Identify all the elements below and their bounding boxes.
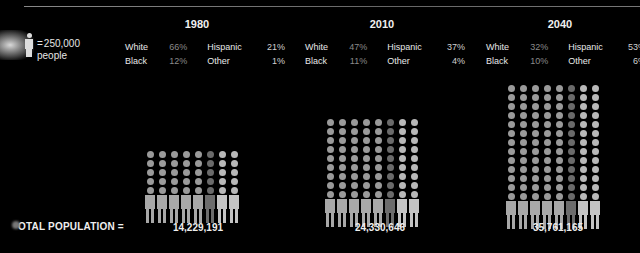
person-head-icon [568, 121, 575, 128]
person-head-icon [520, 148, 527, 155]
person-head-icon [532, 175, 539, 182]
total-2040: 35,761,165 [508, 222, 608, 233]
person-head-icon [580, 157, 587, 164]
person-head-icon [532, 94, 539, 101]
person-head-icon [171, 169, 178, 176]
person-head-icon [520, 166, 527, 173]
person-head-icon [339, 119, 346, 126]
person-head-icon [568, 112, 575, 119]
person-head-icon [231, 151, 238, 158]
white-pct: 47% [344, 40, 367, 54]
person-head-icon [520, 103, 527, 110]
hispanic-pct: 37% [442, 40, 465, 54]
person-head-icon [351, 146, 358, 153]
person-head-icon [592, 112, 599, 119]
person-head-icon [399, 164, 406, 171]
legend: =250,000 people [24, 33, 80, 62]
person-head-icon [159, 187, 166, 194]
person-head-icon [327, 119, 334, 126]
person-head-icon [363, 155, 370, 162]
person-head-icon [219, 178, 226, 185]
person-head-icon [339, 182, 346, 189]
person-head-icon [195, 178, 202, 185]
year-2010: 2010 [332, 18, 432, 30]
person-head-icon [532, 139, 539, 146]
person-head-icon [568, 94, 575, 101]
person-head-icon [532, 148, 539, 155]
person-head-icon [544, 130, 551, 137]
person-head-icon [411, 182, 418, 189]
person-head-icon [375, 155, 382, 162]
person-head-icon [351, 173, 358, 180]
stats-2010: White 47% Hispanic 37% Black 11% Other 4… [305, 40, 465, 68]
person-head-icon [580, 139, 587, 146]
person-head-icon [544, 103, 551, 110]
person-head-icon [375, 173, 382, 180]
person-head-icon [508, 130, 515, 137]
person-head-icon [375, 137, 382, 144]
person-head-icon [508, 94, 515, 101]
person-head-icon [592, 103, 599, 110]
person-head-icon [183, 187, 190, 194]
person-head-icon [399, 146, 406, 153]
person-head-icon [363, 191, 370, 198]
person-head-icon [508, 148, 515, 155]
person-head-icon [183, 151, 190, 158]
person-head-icon [580, 166, 587, 173]
person-head-icon [387, 128, 394, 135]
person-icon [204, 195, 216, 225]
person-head-icon [592, 121, 599, 128]
person-head-icon [592, 148, 599, 155]
person-head-icon [219, 151, 226, 158]
person-head-icon [520, 193, 527, 200]
person-head-icon [544, 184, 551, 191]
person-head-icon [147, 178, 154, 185]
person-head-icon [592, 94, 599, 101]
person-head-icon [592, 157, 599, 164]
person-head-icon [207, 160, 214, 167]
person-head-icon [171, 178, 178, 185]
person-head-icon [207, 169, 214, 176]
person-head-icon [195, 169, 202, 176]
person-head-icon [207, 187, 214, 194]
person-head-icon [375, 119, 382, 126]
person-head-icon [363, 146, 370, 153]
person-head-icon [520, 157, 527, 164]
white-pct: 32% [525, 40, 548, 54]
person-head-icon [592, 175, 599, 182]
person-head-icon [231, 169, 238, 176]
person-head-icon [399, 191, 406, 198]
person-head-icon [520, 85, 527, 92]
person-head-icon [580, 184, 587, 191]
person-head-icon [556, 103, 563, 110]
person-head-icon [171, 160, 178, 167]
person-head-icon [195, 160, 202, 167]
person-head-icon [363, 182, 370, 189]
person-head-icon [592, 85, 599, 92]
legend-equals: = [37, 38, 43, 50]
person-head-icon [363, 128, 370, 135]
person-head-icon [544, 94, 551, 101]
person-head-icon [568, 175, 575, 182]
person-head-icon [532, 85, 539, 92]
person-head-icon [327, 164, 334, 171]
person-head-icon [508, 112, 515, 119]
person-head-icon [159, 169, 166, 176]
legend-unit: people [37, 50, 67, 61]
person-head-icon [327, 182, 334, 189]
other-pct: 4% [442, 54, 465, 68]
person-head-icon [411, 146, 418, 153]
person-icon [228, 195, 240, 225]
person-icon [216, 195, 228, 225]
white-pct: 66% [164, 40, 187, 54]
person-head-icon [544, 139, 551, 146]
person-head-icon [351, 119, 358, 126]
person-head-icon [580, 148, 587, 155]
person-head-icon [580, 94, 587, 101]
person-head-icon [508, 103, 515, 110]
person-head-icon [580, 112, 587, 119]
person-head-icon [327, 191, 334, 198]
person-head-icon [387, 137, 394, 144]
person-head-icon [171, 187, 178, 194]
person-head-icon [508, 193, 515, 200]
